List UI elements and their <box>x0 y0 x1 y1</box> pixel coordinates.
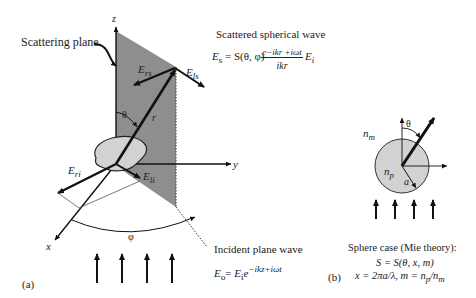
x-axis <box>55 164 116 240</box>
mie-equation-2: x = 2πa/λ, m = np/nm <box>355 270 445 285</box>
radius-label: a <box>404 176 409 188</box>
scattered-rhs: Ei <box>305 50 314 66</box>
phi-arc <box>72 217 195 232</box>
incident-arrows-a <box>97 254 172 283</box>
x-axis-label: x <box>46 240 51 252</box>
incident-wave-title: Incident plane wave <box>214 243 303 255</box>
z-axis-label: z <box>112 13 116 25</box>
scattered-wave-equation: Es = S(θ, φ) <box>212 50 265 66</box>
incident-arrows-b <box>376 200 433 219</box>
panel-a-label: (a) <box>22 278 34 290</box>
e-ri-label: Eri <box>68 164 81 179</box>
mie-title: Sphere case (Mie theory): <box>348 242 457 254</box>
scattered-denominator: ikr <box>261 60 303 71</box>
panel-b-label: (b) <box>328 271 341 283</box>
medium-index-label: nm <box>363 127 375 143</box>
e-ls-label: Els <box>186 66 199 81</box>
r-label: r <box>152 112 156 124</box>
e-rs-label: Ers <box>138 63 152 78</box>
scattered-numerator: e−ikr +iωt <box>261 47 303 58</box>
y-axis-label: y <box>233 158 238 170</box>
scattered-wave-title: Scattered spherical wave <box>216 28 325 40</box>
e-ri-vector <box>58 164 116 193</box>
phi-label: φ <box>128 231 134 243</box>
incident-wave-equation: Eo= Eie−ikz+iωt <box>214 263 282 283</box>
mie-equation-1: S = S(θ, x, m) <box>376 257 434 269</box>
theta-label-b: θ <box>406 118 411 130</box>
particle-index-label: np <box>384 165 394 181</box>
theta-label: θ <box>122 109 127 121</box>
e-li-label: Eli <box>143 170 155 185</box>
scattering-plane-label: Scattering plane <box>21 36 99 48</box>
